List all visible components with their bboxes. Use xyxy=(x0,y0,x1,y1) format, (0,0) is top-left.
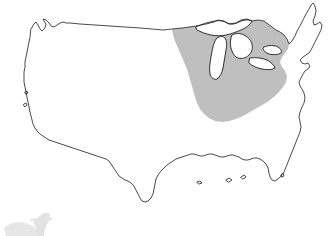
florida-tip-detail xyxy=(281,173,284,177)
highlighted-region-upper-midwest xyxy=(172,19,289,122)
us-locator-map: Outline map of the contiguous United Sta… xyxy=(0,0,334,236)
watermark xyxy=(4,213,52,236)
gulf-coast-detail xyxy=(197,175,246,184)
